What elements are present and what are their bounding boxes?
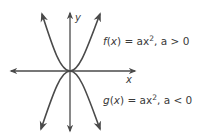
- curve-f-upward-parabola: [42, 14, 100, 71]
- equation-f-label: f(x) = ax2, a > 0: [103, 34, 189, 47]
- equation-g-label: g(x) = ax2, a < 0: [103, 93, 192, 106]
- y-axis-label: y: [74, 12, 82, 23]
- x-axis-label: x: [125, 74, 132, 85]
- quadratic-diagram: y x f(x) = ax2, a > 0 g(x) = ax2, a < 0: [0, 0, 201, 135]
